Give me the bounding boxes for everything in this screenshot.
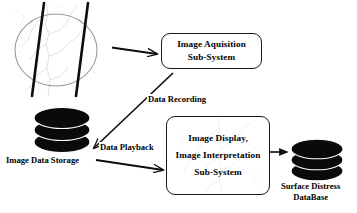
- acq-box-line-1: Image Aquisition: [177, 38, 246, 51]
- acq-box-line-2: Sub-System: [188, 51, 235, 64]
- node-image-acquisition-sub-system[interactable]: Image Aquisition Sub-System: [161, 33, 262, 69]
- edge-storage-to-display: [96, 160, 163, 170]
- edge-label-data-recording: Data Recording: [147, 94, 207, 104]
- database-cylinder-icon: [288, 136, 346, 184]
- pavement-crack-photo: [4, 0, 112, 100]
- distress-label-line-2: DataBase: [281, 192, 340, 203]
- display-box-line-1: Image Display,: [188, 130, 248, 147]
- display-box-line-3: Sub-System: [194, 164, 241, 181]
- distress-label-line-1: Surface Distress: [281, 181, 340, 192]
- road-photo-svg: [4, 0, 112, 100]
- datastore-label-image-data-storage: Image Data Storage: [6, 155, 79, 166]
- edge-label-data-playback: Data Playback: [99, 142, 155, 152]
- datastore-label-surface-distress-database: Surface Distress DataBase: [281, 181, 340, 202]
- datastore-image-data-storage[interactable]: [31, 104, 93, 160]
- node-image-display-interpretation-sub-system[interactable]: Image Display, Image Interpretation Sub-…: [166, 116, 270, 195]
- diagram-canvas: Image Aquisition Sub-System Image Displa…: [0, 0, 357, 213]
- database-cylinder-icon: [31, 104, 93, 156]
- display-box-line-2: Image Interpretation: [176, 147, 261, 164]
